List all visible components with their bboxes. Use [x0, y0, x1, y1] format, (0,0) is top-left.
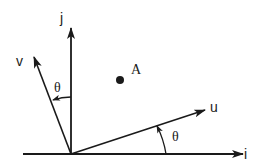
lower-angle-arc [157, 126, 166, 154]
u-vector [71, 110, 205, 154]
j-axis-label: j [59, 10, 63, 26]
point-a-label: A [131, 62, 142, 77]
v-vector-label: v [16, 53, 23, 69]
upper-theta-label: θ [54, 80, 61, 95]
i-axis-label: i [244, 146, 247, 162]
lower-theta-label: θ [172, 129, 179, 144]
v-vector [34, 57, 71, 154]
rotation-diagram: i j v u θ θ A [0, 0, 260, 168]
upper-angle-arc [53, 97, 71, 100]
point-a-dot [116, 76, 124, 84]
u-vector-label: u [210, 99, 218, 115]
